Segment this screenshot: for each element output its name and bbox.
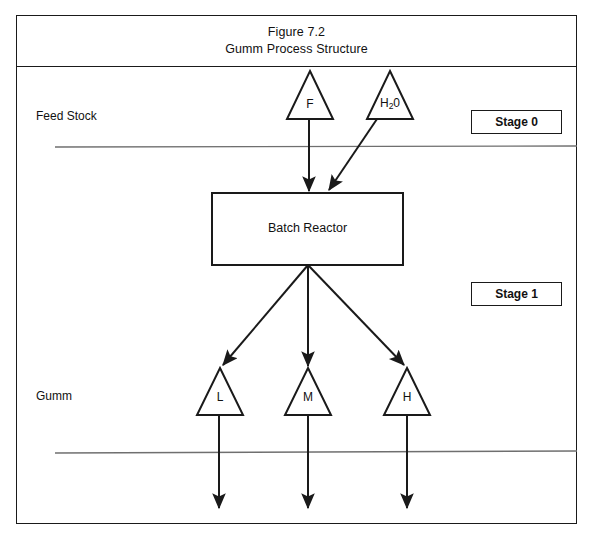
section-label-feed-stock: Feed Stock: [36, 109, 97, 123]
figure-title-line-1: Figure 7.2: [268, 24, 325, 41]
product-node-label-l: L: [217, 390, 224, 404]
stage-0-badge: Stage 0: [471, 110, 562, 134]
feed-node-label-f: F: [306, 97, 313, 111]
stage-1-badge: Stage 1: [471, 282, 562, 306]
figure-title-line-2: Gumm Process Structure: [225, 41, 368, 58]
figure-title-band: Figure 7.2 Gumm Process Structure: [17, 16, 576, 67]
figure-page: Figure 7.2 Gumm Process Structure: [0, 0, 592, 536]
feed-node-label-h2o: H20: [380, 96, 400, 110]
product-node-label-m: M: [303, 390, 313, 404]
figure-frame: Figure 7.2 Gumm Process Structure: [16, 15, 577, 524]
section-label-gumm: Gumm: [36, 389, 72, 403]
product-node-label-h: H: [403, 390, 412, 404]
batch-reactor-label: Batch Reactor: [212, 221, 403, 235]
